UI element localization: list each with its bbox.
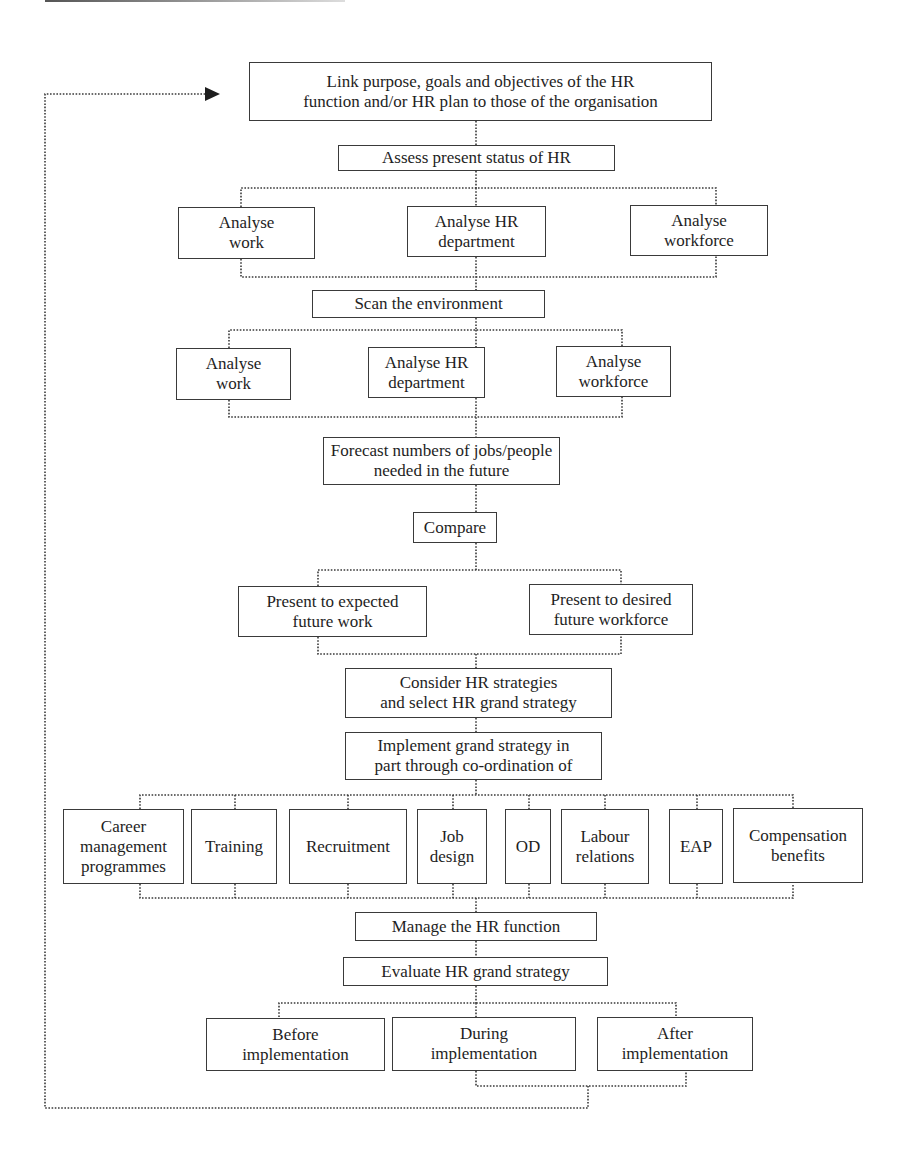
- branch-text: Analyse work: [206, 354, 262, 394]
- forecast-box: Forecast numbers of jobs/people needed i…: [323, 437, 560, 485]
- branch-text: Labour relations: [576, 827, 635, 867]
- branch-text: During implementation: [431, 1024, 538, 1064]
- manage-hr-function-box: Manage the HR function: [355, 912, 597, 941]
- evaluate-strategy-box: Evaluate HR grand strategy: [343, 957, 608, 986]
- branch-text: Analyse workforce: [579, 352, 649, 392]
- scan-analyse-work-box: Analyse work: [176, 348, 291, 400]
- implement-strategy-text: Implement grand strategy in part through…: [375, 736, 573, 776]
- branch-text: Career management programmes: [80, 817, 167, 877]
- link-goals-text: Link purpose, goals and objectives of th…: [303, 72, 658, 112]
- arrow-right-icon: [205, 87, 220, 101]
- present-desired-workforce-box: Present to desired future workforce: [529, 584, 693, 635]
- eap-box: EAP: [669, 809, 723, 884]
- connector-lines: [0, 0, 916, 1172]
- compare-text: Compare: [424, 518, 486, 538]
- scan-environment-text: Scan the environment: [354, 294, 502, 314]
- training-box: Training: [191, 809, 277, 884]
- evaluate-strategy-text: Evaluate HR grand strategy: [381, 962, 569, 982]
- compensation-benefits-box: Compensation benefits: [733, 808, 863, 883]
- branch-text: Present to expected future work: [266, 592, 398, 632]
- branch-text: Analyse HR department: [385, 353, 469, 393]
- before-implementation-box: Before implementation: [206, 1018, 385, 1071]
- branch-text: Training: [205, 837, 263, 857]
- manage-hr-function-text: Manage the HR function: [392, 917, 561, 937]
- during-implementation-box: During implementation: [392, 1017, 576, 1071]
- consider-strategies-text: Consider HR strategies and select HR gra…: [380, 673, 576, 713]
- assess-analyse-work-box: Analyse work: [178, 207, 315, 259]
- assess-analyse-workforce-box: Analyse workforce: [630, 205, 768, 256]
- branch-text: Before implementation: [242, 1025, 349, 1065]
- branch-text: Recruitment: [306, 837, 390, 857]
- branch-text: Analyse workforce: [664, 211, 734, 251]
- job-design-box: Job design: [417, 809, 487, 884]
- branch-text: Analyse work: [219, 213, 275, 253]
- implement-strategy-box: Implement grand strategy in part through…: [345, 732, 602, 780]
- link-goals-box: Link purpose, goals and objectives of th…: [249, 62, 712, 121]
- after-implementation-box: After implementation: [597, 1017, 753, 1071]
- branch-text: Compensation benefits: [749, 826, 847, 866]
- labour-relations-box: Labour relations: [561, 809, 649, 884]
- compare-box: Compare: [413, 512, 497, 543]
- forecast-text: Forecast numbers of jobs/people needed i…: [331, 441, 552, 481]
- assess-status-box: Assess present status of HR: [338, 145, 615, 171]
- present-expected-work-box: Present to expected future work: [238, 586, 427, 637]
- branch-text: OD: [516, 837, 541, 857]
- branch-text: EAP: [680, 837, 712, 857]
- consider-strategies-box: Consider HR strategies and select HR gra…: [345, 668, 612, 718]
- branch-text: Present to desired future workforce: [551, 590, 672, 630]
- branch-text: After implementation: [622, 1024, 729, 1064]
- scan-analyse-workforce-box: Analyse workforce: [556, 346, 671, 397]
- od-box: OD: [505, 809, 551, 884]
- scan-environment-box: Scan the environment: [312, 290, 545, 318]
- scan-analyse-hr-dept-box: Analyse HR department: [368, 347, 485, 398]
- branch-text: Analyse HR department: [435, 212, 519, 252]
- assess-analyse-hr-dept-box: Analyse HR department: [407, 206, 546, 257]
- recruitment-box: Recruitment: [289, 809, 407, 884]
- career-management-box: Career management programmes: [63, 809, 184, 884]
- branch-text: Job design: [430, 827, 474, 867]
- assess-status-text: Assess present status of HR: [382, 148, 571, 168]
